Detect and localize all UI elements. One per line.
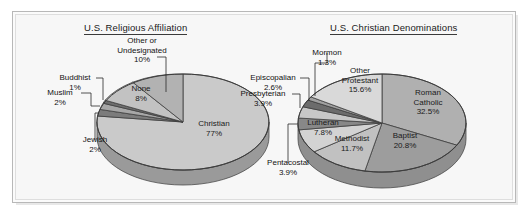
label-roman-catholic-line2: Catholic <box>414 98 443 107</box>
leader-muslim <box>81 93 100 106</box>
label-roman-catholic: Roman Catholic 32.5% <box>402 88 454 117</box>
label-mormon: Mormon 1.3% <box>303 48 351 67</box>
label-other-protestant-pct: 15.6% <box>331 85 389 95</box>
label-none-pct: 8% <box>122 94 160 104</box>
leader-buddhist <box>96 78 103 100</box>
leader-episcopalian <box>300 78 309 101</box>
label-pentacostal-pct: 3.9% <box>258 168 318 178</box>
label-roman-catholic-line1: Roman <box>415 88 441 97</box>
leader-presbyterian <box>292 94 300 108</box>
label-baptist-pct: 20.8% <box>382 141 428 151</box>
label-roman-catholic-pct: 32.5% <box>402 107 454 117</box>
label-christian: Christian 77% <box>186 119 242 138</box>
label-other-protestant-line2: Protestant <box>342 76 378 85</box>
label-other-undesignated-line2: Undesignated <box>117 46 166 55</box>
label-baptist-name: Baptist <box>393 131 417 140</box>
label-pentacostal: Pentacostal 3.9% <box>258 158 318 177</box>
label-jewish-pct: 2% <box>74 145 116 155</box>
label-christian-name: Christian <box>198 119 230 128</box>
label-jewish: Jewish 2% <box>74 135 116 154</box>
right-chart-title: U.S. Christian Denominations <box>330 22 457 35</box>
label-presbyterian: Presbyterian 3.9% <box>233 89 293 108</box>
label-jewish-name: Jewish <box>83 135 107 144</box>
label-presbyterian-pct: 3.9% <box>233 99 293 109</box>
label-mormon-name: Mormon <box>312 48 341 57</box>
label-christian-pct: 77% <box>186 129 242 139</box>
label-muslim-pct: 2% <box>40 98 80 108</box>
label-other-protestant: Other Protestant 15.6% <box>331 66 389 95</box>
charts-stage: U.S. Religious Affiliation U.S. Christia… <box>0 0 532 219</box>
label-pentacostal-name: Pentacostal <box>267 158 309 167</box>
label-presbyterian-name: Presbyterian <box>241 89 286 98</box>
label-buddhist-name: Buddhist <box>59 73 90 82</box>
label-none-name: None <box>131 84 150 93</box>
label-lutheran: Lutheran 7.8% <box>298 118 348 137</box>
label-episcopalian-name: Episcopalian <box>250 73 295 82</box>
label-muslim: Muslim 2% <box>40 88 80 107</box>
label-other-undesignated-pct: 10% <box>106 55 178 65</box>
label-baptist: Baptist 20.8% <box>382 131 428 150</box>
label-none: None 8% <box>122 84 160 103</box>
label-other-undesignated: Other or Undesignated 10% <box>106 36 178 65</box>
label-muslim-name: Muslim <box>47 88 72 97</box>
left-chart-title: U.S. Religious Affiliation <box>84 22 187 35</box>
label-methodist-pct: 11.7% <box>325 144 379 154</box>
label-lutheran-pct: 7.8% <box>298 128 348 138</box>
label-lutheran-name: Lutheran <box>307 118 339 127</box>
figure-root: U.S. Religious Affiliation U.S. Christia… <box>0 0 532 219</box>
label-other-undesignated-line1: Other or <box>127 36 156 45</box>
label-other-protestant-line1: Other <box>350 66 370 75</box>
